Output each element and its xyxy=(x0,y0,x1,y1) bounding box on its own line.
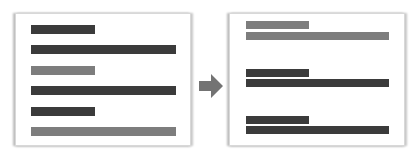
bar-long xyxy=(246,126,389,134)
bar-short xyxy=(246,21,309,29)
bar-long xyxy=(31,86,176,95)
bar-short xyxy=(31,107,95,116)
bar-long xyxy=(246,79,389,87)
before-panel xyxy=(15,13,191,146)
bar-short xyxy=(246,116,309,124)
bar-short xyxy=(246,69,309,77)
bar-long xyxy=(246,32,389,40)
bar-long xyxy=(31,45,176,54)
after-panel xyxy=(229,13,405,146)
arrow-right-icon xyxy=(199,74,223,98)
bar-short xyxy=(31,25,95,34)
bar-long xyxy=(31,127,176,136)
bar-short xyxy=(31,66,95,75)
